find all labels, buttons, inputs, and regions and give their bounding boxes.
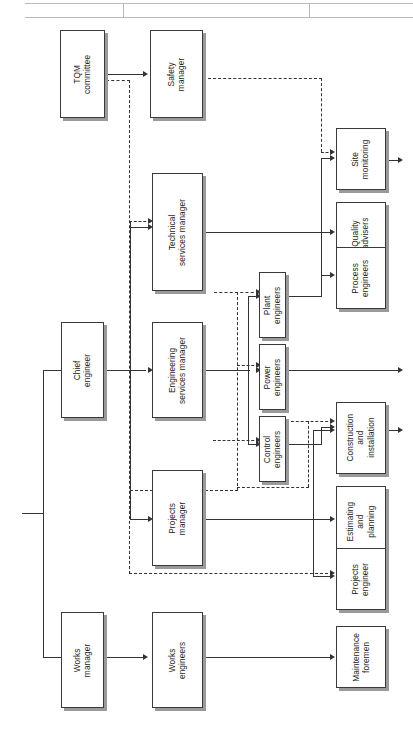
node-works-engineers[interactable]: Worksengineers (152, 612, 203, 708)
node-label-control-engineers: Controlengineers (262, 430, 283, 467)
node-plant-engineers[interactable]: Plantengineers (259, 272, 286, 338)
node-chief-engineer[interactable]: Chiefengineer (61, 322, 104, 418)
edge-dashed-to-construction (286, 421, 333, 422)
arrowhead-maintenance-foremen (330, 654, 335, 660)
edge-chief-to-bus (104, 370, 146, 371)
edge-works-engineers-to-maintenance (203, 657, 333, 658)
node-label-construction-and-installation: Constructionandinstallation (345, 414, 376, 462)
edge-technical-bus-vertical (321, 158, 322, 275)
node-label-safety-manager: Safetymanager (166, 57, 187, 90)
edge-works-manager-to-engineers (104, 657, 146, 658)
edge-tqm-to-safety (106, 74, 146, 75)
edge-dashed-to-control (213, 440, 259, 441)
node-control-engineers[interactable]: Controlengineers (259, 416, 286, 482)
page-border-top-2 (25, 17, 413, 18)
edge-dashed-construction-riser (308, 421, 309, 487)
node-label-quality-advisers: Qualityadvisers (351, 217, 372, 249)
arrowhead-process-engineers (330, 272, 335, 278)
edge-root-stub (22, 513, 44, 514)
edge-plant-to-process-v (321, 275, 322, 297)
node-engineering-services-manager[interactable]: Engineeringservices manager (152, 322, 203, 418)
arrowhead-safety-manager (143, 71, 148, 77)
edge-engineering-out (203, 370, 250, 371)
arrowhead-projects-engineer (330, 573, 335, 579)
edge-tqm-to-projects-engineer-dashed (129, 573, 333, 574)
edge-tqm-dashed-stub (106, 80, 130, 81)
page-border-divider-right (309, 3, 310, 17)
arrowhead-construction-out (398, 427, 403, 433)
edge-works-manager-left-stub (43, 657, 61, 658)
node-label-tqm-committee: TQMcommittee (72, 54, 93, 93)
node-works-manager[interactable]: Worksmanager (61, 612, 104, 708)
edge-projects-bus-vertical (313, 430, 314, 576)
node-power-engineers[interactable]: Powerengineers (259, 344, 286, 410)
node-construction-and-installation[interactable]: Constructionandinstallation (336, 402, 386, 474)
node-label-engineering-services-manager: Engineeringservices manager (167, 336, 188, 403)
node-label-power-engineers: Powerengineers (262, 358, 283, 395)
arrowhead-construction-from-projects (330, 427, 335, 433)
page-border-top (25, 3, 413, 4)
node-projects-engineer[interactable]: Projectsengineer (336, 548, 386, 610)
node-label-works-manager: Worksmanager (72, 643, 93, 676)
edge-projects-out (203, 519, 315, 520)
arrowhead-site-monitoring-out (398, 157, 403, 163)
node-label-projects-engineer: Projectsengineer (351, 562, 372, 595)
node-label-plant-engineers: Plantengineers (262, 286, 283, 323)
org-chart-canvas: TQMcommittee Safetymanager Technicalserv… (0, 0, 413, 736)
node-maintenance-foremen[interactable]: Maintenanceforemen (336, 626, 386, 688)
arrowhead-site-monitoring (330, 155, 335, 161)
edge-dashed-to-plant (214, 292, 259, 293)
node-technical-services-manager[interactable]: Technicalservices manager (152, 173, 203, 291)
node-label-chief-engineer: Chiefengineer (72, 353, 93, 386)
edge-dashed-construction-return (237, 487, 309, 488)
edge-power-out (286, 370, 400, 371)
arrowhead-quality-advisers (330, 229, 335, 235)
edge-dashed-engineers-trunk (237, 292, 238, 491)
edge-control-out (286, 444, 322, 445)
node-safety-manager[interactable]: Safetymanager (150, 30, 203, 118)
edge-engineering-bus-vertical (248, 296, 249, 444)
arrowhead-power-out (398, 367, 403, 373)
node-label-projects-manager: Projectsmanager (167, 501, 188, 534)
node-site-monitoring[interactable]: Sitemonitoring (336, 128, 386, 190)
node-label-site-monitoring: Sitemonitoring (351, 139, 372, 179)
edge-technical-out (203, 232, 322, 233)
arrowhead-construction-dashed (330, 418, 335, 424)
arrowhead-works-engineers (143, 654, 148, 660)
node-label-process-engineers: Processengineers (351, 259, 372, 296)
node-label-technical-services-manager: Technicalservices manager (167, 198, 188, 265)
node-process-engineers[interactable]: Processengineers (336, 247, 386, 309)
edge-safety-dashed-out (203, 78, 322, 79)
node-label-works-engineers: Worksengineers (167, 641, 188, 678)
node-label-estimating-and-planning: Estimatingandplanning (345, 502, 376, 542)
node-label-maintenance-foremen: Maintenanceforemen (351, 633, 372, 682)
page-border-divider-left (123, 3, 124, 17)
edge-plant-out (286, 296, 322, 297)
node-tqm-committee[interactable]: TQMcommittee (60, 30, 105, 118)
edge-safety-dashed-down (321, 78, 322, 152)
node-projects-manager[interactable]: Projectsmanager (152, 470, 203, 566)
edge-chief-left-stub (43, 370, 61, 371)
arrowhead-estimating-and-planning (330, 516, 335, 522)
